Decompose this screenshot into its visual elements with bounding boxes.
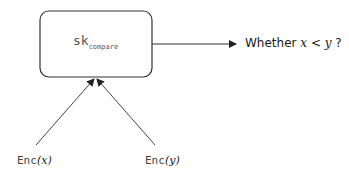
input-label-enc-y: Enc(y) <box>145 154 180 167</box>
key-subscript: compare <box>89 43 119 51</box>
key-main: sk <box>73 33 89 48</box>
result-label: Whether x < y ? <box>245 36 342 50</box>
input-arrow-x <box>36 79 94 145</box>
input-arrow-y <box>97 79 155 145</box>
key-label: skcompare <box>73 33 118 48</box>
result-suffix: ? <box>332 36 342 50</box>
paren-close: ) <box>175 154 179 167</box>
input-label-enc-x: Enc(x) <box>17 154 52 167</box>
enc-func: Enc <box>17 154 37 167</box>
diagram-canvas <box>0 0 349 174</box>
result-op: < <box>307 36 325 50</box>
result-var-y: y <box>325 36 332 50</box>
result-prefix: Whether <box>245 36 300 50</box>
paren-close: ) <box>47 154 51 167</box>
enc-func: Enc <box>145 154 165 167</box>
